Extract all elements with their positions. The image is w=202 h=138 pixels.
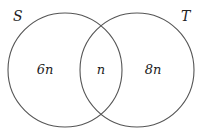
region-t-only-label: 8n <box>145 62 162 77</box>
set-t-label: T <box>181 8 192 24</box>
venn-diagram: S T 6n n 8n <box>0 0 202 138</box>
region-intersection-label: n <box>97 62 105 77</box>
region-s-only-label: 6n <box>37 62 54 77</box>
set-s-label: S <box>13 8 23 24</box>
